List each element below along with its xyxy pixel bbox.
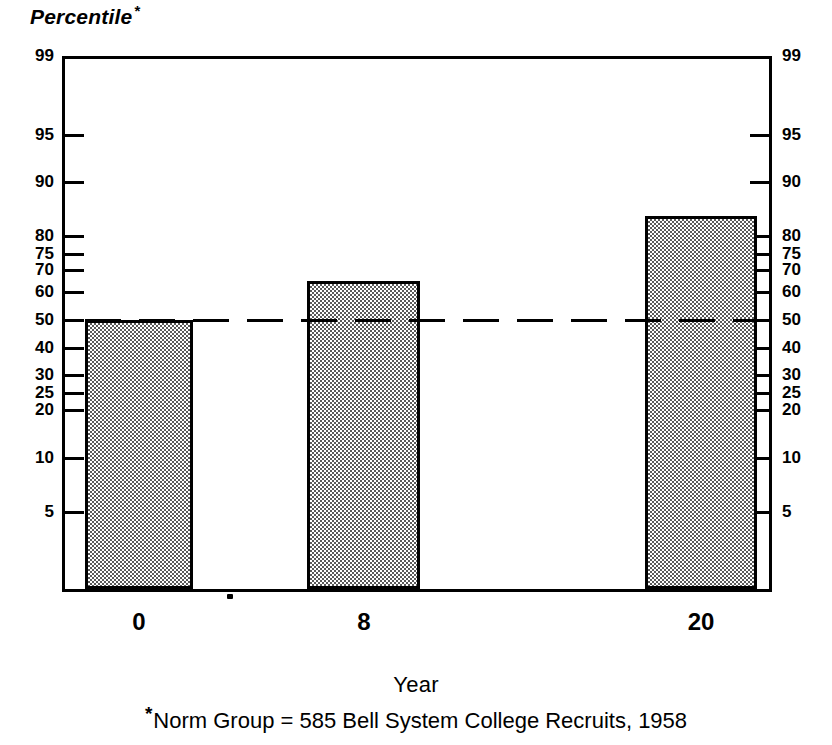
y-tick-left-80 [62,235,84,238]
y-axis-label-right-80: 80 [782,227,801,244]
y-tick-right-90 [750,181,772,184]
y-tick-left-25 [62,392,84,395]
y-axis-label-left-20: 20 [35,401,54,418]
y-tick-left-70 [62,269,84,272]
x-axis-title: Year [0,672,832,698]
y-axis-label-left-50: 50 [35,311,54,328]
footnote-text: Norm Group = 585 Bell System College Rec… [153,708,687,733]
y-tick-left-50 [62,319,84,322]
y-axis-label-left-90: 90 [35,173,54,190]
y-axis-label-right-50: 50 [782,311,801,328]
y-axis-label-right-20: 20 [782,401,801,418]
y-axis-label-right-30: 30 [782,366,801,383]
percentile-bar-chart: Percentile* 9999959590908080757570706060… [0,0,832,745]
y-axis-label-right-90: 90 [782,173,801,190]
chart-footnote: *Norm Group = 585 Bell System College Re… [0,703,832,734]
median-reference-line [85,319,772,322]
x-axis-label-0: 0 [132,608,145,636]
baseline-tick-mark-icon [227,594,233,599]
x-axis-label-20: 20 [688,608,715,636]
y-tick-left-60 [62,291,84,294]
y-axis-label-right-95: 95 [782,126,801,143]
y-axis-label-left-60: 60 [35,283,54,300]
y-axis-label-right-70: 70 [782,261,801,278]
y-axis-label-left-10: 10 [35,449,54,466]
y-axis-label-right-5: 5 [782,503,791,520]
y-tick-left-20 [62,409,84,412]
y-axis-label-right-10: 10 [782,449,801,466]
y-tick-left-95 [62,134,84,137]
y-tick-left-5 [62,511,84,514]
bar-year-0 [85,320,193,589]
y-axis-label-left-99: 99 [35,47,54,64]
y-axis-label-left-5: 5 [45,503,54,520]
y-axis-label-left-40: 40 [35,339,54,356]
y-tick-left-10 [62,457,84,460]
y-axis-label-left-95: 95 [35,126,54,143]
bar-year-20 [645,216,757,589]
y-axis-label-right-40: 40 [782,339,801,356]
x-axis-label-8: 8 [357,608,370,636]
y-tick-left-40 [62,347,84,350]
y-axis-label-left-25: 25 [35,384,54,401]
y-axis-label-right-60: 60 [782,283,801,300]
y-axis-label-left-80: 80 [35,227,54,244]
y-tick-left-30 [62,374,84,377]
y-axis-label-right-99: 99 [782,47,801,64]
y-tick-left-90 [62,181,84,184]
bar-year-8 [307,281,420,589]
y-axis-title-text: Percentile [30,5,132,28]
y-axis-label-left-70: 70 [35,261,54,278]
footnote-mark: * [145,703,152,724]
y-axis-label-left-30: 30 [35,366,54,383]
y-axis-title-footnote-mark: * [134,2,140,19]
y-axis-title: Percentile* [30,2,140,29]
y-tick-left-75 [62,253,84,256]
y-tick-right-95 [750,134,772,137]
y-axis-label-right-25: 25 [782,384,801,401]
